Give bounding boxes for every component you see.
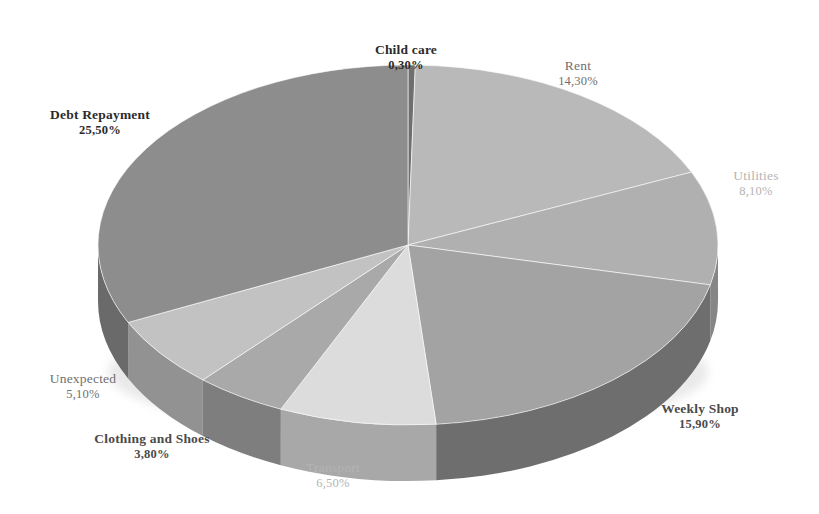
pie-label-name: Transport <box>306 460 360 476</box>
pie-label-value: 25,50% <box>50 123 150 138</box>
pie-label-value: 5,10% <box>50 387 116 402</box>
pie-label-child-care: Child care0,30% <box>375 42 437 73</box>
pie-label-value: 14,30% <box>558 74 598 89</box>
pie-label-rent: Rent14,30% <box>558 58 598 89</box>
pie-label-name: Utilities <box>733 168 778 184</box>
pie-label-weekly-shop: Weekly Shop15,90% <box>661 401 739 432</box>
pie-chart: Child care0,30%Rent14,30%Utilities8,10%W… <box>0 0 819 514</box>
pie-label-value: 8,10% <box>733 184 778 199</box>
pie-label-name: Rent <box>558 58 598 74</box>
pie-top-slices <box>98 65 718 425</box>
pie-label-name: Unexpected <box>50 371 116 387</box>
pie-label-utilities: Utilities8,10% <box>733 168 778 199</box>
pie-label-transport: Transport6,50% <box>306 460 360 491</box>
pie-label-clothing-and-shoes: Clothing and Shoes3,80% <box>94 431 209 462</box>
pie-label-name: Clothing and Shoes <box>94 431 209 447</box>
pie-label-value: 15,90% <box>661 417 739 432</box>
pie-label-value: 6,50% <box>306 476 360 491</box>
pie-label-name: Child care <box>375 42 437 58</box>
pie-label-debt-repayment: Debt Repayment25,50% <box>50 107 150 138</box>
pie-label-unexpected: Unexpected5,10% <box>50 371 116 402</box>
pie-label-name: Weekly Shop <box>661 401 739 417</box>
pie-label-value: 0,30% <box>375 58 437 73</box>
pie-label-name: Debt Repayment <box>50 107 150 123</box>
pie-label-value: 3,80% <box>94 447 209 462</box>
